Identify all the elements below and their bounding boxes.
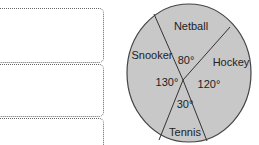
label-netball: Netball: [174, 20, 208, 32]
answer-box-2: [0, 64, 104, 117]
angle-tennis: 30°: [177, 98, 194, 110]
label-tennis: Tennis: [169, 126, 201, 138]
label-snooker: Snooker: [132, 49, 173, 61]
angle-snooker: 130°: [156, 76, 179, 88]
label-hockey: Hockey: [213, 56, 250, 68]
answer-box-3: [0, 118, 104, 145]
pie-chart: Netball Snooker Hockey Tennis 80° 120° 1…: [126, 2, 256, 144]
answer-box-1: [0, 8, 104, 63]
angle-hockey: 120°: [198, 78, 221, 90]
angle-netball: 80°: [178, 54, 195, 66]
